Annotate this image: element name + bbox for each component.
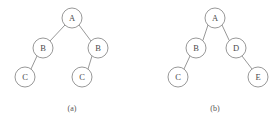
caption-panel-b: (b)	[210, 104, 220, 113]
node-label: C	[79, 72, 85, 82]
node-label: C	[175, 72, 181, 82]
node-a-b-left[interactable]: B	[33, 38, 53, 58]
tree-panel-a: A B B C C (a)	[15, 8, 108, 113]
edge-a-root-to-b-left	[50, 25, 65, 41]
edge-a-root-to-b-right	[79, 25, 91, 41]
node-b-e[interactable]: E	[248, 67, 268, 87]
node-a-c-left[interactable]: C	[15, 67, 35, 87]
node-label: D	[233, 43, 239, 53]
node-label: A	[69, 13, 76, 23]
node-b-c[interactable]: C	[168, 67, 188, 87]
node-b-root[interactable]: A	[205, 8, 225, 28]
edge-b-b-to-c	[184, 56, 190, 69]
figure-canvas: A B B C C (a)	[0, 0, 280, 123]
node-a-c-right[interactable]: C	[72, 67, 92, 87]
tree-panel-b: A B D C E (b)	[168, 8, 268, 113]
edge-a-b-right-to-c	[88, 56, 92, 69]
edge-a-b-left-to-c	[31, 56, 37, 69]
node-b-b[interactable]: B	[186, 38, 206, 58]
node-label: E	[255, 72, 260, 82]
node-label: B	[40, 43, 46, 53]
edge-b-root-to-d	[222, 25, 229, 40]
node-label: C	[22, 72, 28, 82]
node-b-d[interactable]: D	[226, 38, 246, 58]
caption-panel-a: (a)	[68, 104, 77, 113]
edge-b-d-to-e	[242, 56, 252, 69]
node-a-b-right[interactable]: B	[88, 38, 108, 58]
binary-tree-figure: A B B C C (a)	[0, 0, 280, 123]
node-label: A	[212, 13, 219, 23]
edge-b-root-to-b	[203, 25, 208, 40]
node-label: B	[95, 43, 101, 53]
node-a-root[interactable]: A	[62, 8, 82, 28]
node-label: B	[193, 43, 199, 53]
